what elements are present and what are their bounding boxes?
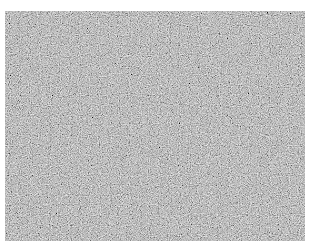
noise-texture-image	[5, 11, 305, 241]
noise-pattern	[5, 11, 305, 241]
